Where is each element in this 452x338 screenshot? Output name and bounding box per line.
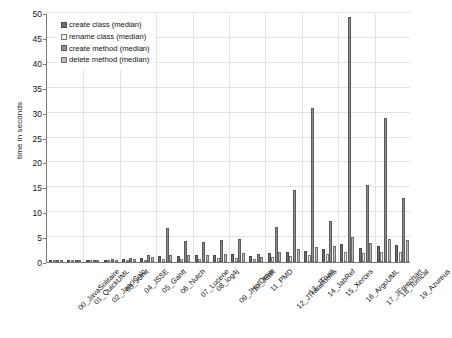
bar	[93, 260, 96, 262]
y-axis-tick-label: 15	[18, 184, 42, 193]
legend-swatch-delete-method	[61, 57, 67, 63]
bar	[231, 254, 234, 262]
bar-group	[375, 14, 393, 262]
bar	[67, 260, 70, 262]
bar	[75, 260, 78, 262]
legend-swatch-create-class	[61, 22, 67, 28]
y-axis-tick-label: 0	[18, 259, 42, 268]
bar	[122, 259, 125, 262]
legend-swatch-rename-class	[61, 34, 67, 40]
bar	[369, 243, 372, 262]
bar	[140, 258, 143, 262]
bar	[195, 255, 198, 262]
gridline-horizontal	[47, 12, 410, 13]
bar	[366, 185, 369, 262]
bar	[213, 255, 216, 262]
bar	[380, 252, 383, 262]
bar	[198, 259, 201, 262]
bar	[56, 260, 59, 262]
bar	[96, 260, 99, 262]
bar	[126, 260, 129, 262]
bar-group	[284, 14, 302, 262]
bar	[220, 240, 223, 262]
bar	[311, 108, 314, 262]
legend-item: create class (median)	[61, 19, 150, 31]
bar	[333, 246, 336, 262]
bar	[115, 260, 118, 262]
bar	[89, 260, 92, 262]
bar-group	[302, 14, 320, 262]
bar-group	[247, 14, 265, 262]
bar	[235, 258, 238, 262]
bar	[49, 260, 52, 262]
bar	[104, 260, 107, 262]
bar-group	[211, 14, 229, 262]
bar	[406, 240, 409, 262]
y-axis-tick-label: 35	[18, 85, 42, 94]
bar	[147, 255, 150, 262]
bar	[304, 251, 307, 262]
bar	[293, 190, 296, 262]
y-axis-tick-mark	[43, 263, 46, 264]
bar	[289, 256, 292, 262]
bar	[71, 260, 74, 262]
bar-group	[356, 14, 374, 262]
bar	[395, 245, 398, 262]
bar	[377, 246, 380, 262]
bar	[340, 244, 343, 262]
bar	[217, 258, 220, 262]
bar	[308, 255, 311, 262]
y-axis-tick-label: 30	[18, 110, 42, 119]
bar	[162, 259, 165, 262]
bar	[224, 254, 227, 262]
legend-label-delete-method: delete method (median)	[69, 54, 149, 66]
bar	[315, 247, 318, 262]
bar	[184, 241, 187, 262]
bar	[253, 259, 256, 262]
bar	[60, 260, 63, 262]
legend-label-create-class: create class (median)	[69, 19, 142, 31]
legend-item: rename class (median)	[61, 31, 150, 43]
y-axis-tick-label: 5	[18, 234, 42, 243]
bar	[206, 255, 209, 262]
bar	[242, 253, 245, 262]
bar	[129, 258, 132, 262]
bar	[86, 260, 89, 262]
bar	[169, 255, 172, 262]
legend-swatch-create-method	[61, 45, 67, 51]
bar-group	[174, 14, 192, 262]
bar	[268, 253, 271, 262]
bar	[249, 256, 252, 262]
y-axis-tick-label: 25	[18, 135, 42, 144]
bar-group	[338, 14, 356, 262]
bar	[158, 256, 161, 262]
bar	[144, 260, 147, 262]
y-axis-tick-label: 50	[18, 10, 42, 19]
bar	[402, 198, 405, 262]
bar-group	[193, 14, 211, 262]
bar	[78, 260, 81, 262]
bar-group	[229, 14, 247, 262]
bar-group	[265, 14, 283, 262]
bar-group	[393, 14, 411, 262]
bar	[275, 227, 278, 262]
bar	[187, 255, 190, 262]
bar	[388, 239, 391, 262]
bar	[133, 259, 136, 262]
bar	[111, 259, 114, 262]
bar	[384, 118, 387, 262]
bar	[322, 249, 325, 262]
bar	[257, 254, 260, 262]
bar	[166, 228, 169, 262]
bar	[348, 17, 351, 262]
y-axis-tick-label: 10	[18, 209, 42, 218]
bar	[329, 221, 332, 262]
bar	[260, 257, 263, 262]
y-axis-tick-label: 20	[18, 159, 42, 168]
bar	[177, 256, 180, 262]
bar	[297, 249, 300, 262]
bar-group	[320, 14, 338, 262]
chart-legend: create class (median) rename class (medi…	[57, 15, 155, 70]
bar	[351, 237, 354, 262]
